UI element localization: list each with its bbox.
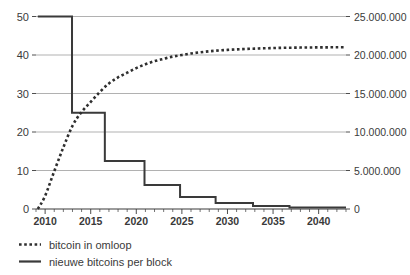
x-axis-labels: 2010201520202025203020352040	[33, 215, 330, 227]
chart-canvas: 50 40 30 20 10 0 25.000.000 20.000.000 1…	[0, 0, 410, 275]
right-label-25m: 25.000.000	[354, 11, 407, 23]
left-axis-ticks	[32, 17, 36, 210]
series-bitcoin-in-omloop	[38, 47, 346, 209]
x-tick-label-2020: 2020	[125, 215, 149, 227]
series-group	[38, 17, 346, 210]
right-label-5m: 5.000.000	[354, 165, 401, 177]
right-label-0: 0	[354, 203, 360, 215]
x-tick-label-2010: 2010	[33, 215, 57, 227]
right-label-20m: 20.000.000	[354, 49, 407, 61]
left-label-40: 40	[17, 49, 29, 61]
left-label-20: 20	[17, 126, 29, 138]
x-tick-label-2025: 2025	[170, 215, 194, 227]
right-axis-ticks	[346, 17, 350, 210]
x-axis-ticks	[36, 209, 346, 214]
series-nieuwe-bitcoins-per-block	[38, 17, 346, 208]
legend: bitcoin in omloop nieuwe bitcoins per bl…	[19, 239, 172, 268]
left-label-30: 30	[17, 88, 29, 100]
left-label-50: 50	[17, 11, 29, 23]
x-tick-label-2040: 2040	[307, 215, 331, 227]
legend-label-bitcoin-in-omloop: bitcoin in omloop	[49, 239, 132, 251]
legend-label-nieuwe-bitcoins-per-block: nieuwe bitcoins per block	[49, 256, 172, 268]
bitcoin-supply-chart: 50 40 30 20 10 0 25.000.000 20.000.000 1…	[0, 0, 410, 275]
left-label-0: 0	[23, 203, 29, 215]
gridlines	[36, 17, 346, 171]
left-axis-labels: 50 40 30 20 10 0	[17, 11, 29, 216]
right-label-10m: 10.000.000	[354, 126, 407, 138]
x-tick-label-2030: 2030	[216, 215, 240, 227]
x-tick-label-2015: 2015	[79, 215, 103, 227]
right-axis-labels: 25.000.000 20.000.000 15.000.000 10.000.…	[354, 11, 407, 216]
x-tick-label-2035: 2035	[261, 215, 285, 227]
left-label-10: 10	[17, 165, 29, 177]
right-label-15m: 15.000.000	[354, 88, 407, 100]
